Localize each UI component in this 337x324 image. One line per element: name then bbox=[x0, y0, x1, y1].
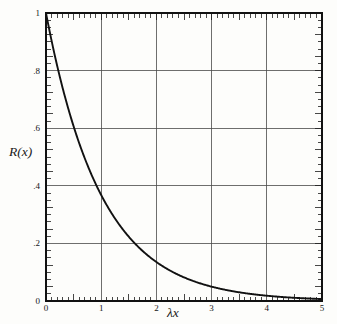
x-tick-label-1: 1 bbox=[93, 304, 109, 313]
x-tick-label-2: 2 bbox=[148, 304, 164, 313]
x-tick-label-5: 5 bbox=[314, 304, 330, 313]
y-tick-label-0_2: .2 bbox=[22, 239, 40, 248]
figure-container: 1 .8 .6 .4 .2 0 0 1 2 3 4 5 R(x) λx bbox=[0, 0, 337, 324]
y-tick-label-0_6: .6 bbox=[22, 124, 40, 133]
x-tick-label-3: 3 bbox=[204, 304, 220, 313]
exponential-decay-chart bbox=[0, 0, 337, 324]
y-tick-label-0_4: .4 bbox=[22, 182, 40, 191]
x-tick-label-4: 4 bbox=[259, 304, 275, 313]
x-tick-label-0: 0 bbox=[38, 304, 54, 313]
y-axis-title: R(x) bbox=[9, 145, 32, 159]
y-tick-label-0_8: .8 bbox=[22, 67, 40, 76]
y-tick-label-1: 1 bbox=[22, 9, 40, 18]
x-axis-title: λx bbox=[167, 306, 179, 320]
plot-background bbox=[46, 13, 322, 301]
